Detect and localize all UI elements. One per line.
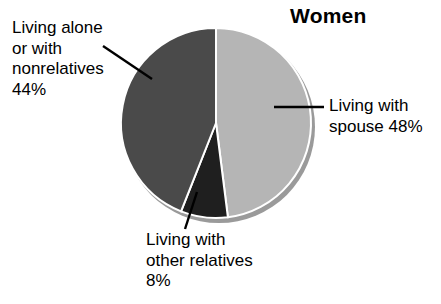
pie-chart-figure: Women Living alone or with nonrelatives …	[0, 0, 441, 304]
annotation-living-with-other-relatives: Living with other relatives 8%	[146, 230, 306, 292]
pie-slices	[121, 28, 311, 218]
annotation-living-alone: Living alone or with nonrelatives 44%	[12, 18, 147, 101]
annotation-living-with-spouse: Living with spouse 48%	[329, 96, 441, 137]
pie-slice-living-with-spouse[interactable]	[216, 28, 311, 217]
chart-title: Women	[290, 4, 435, 27]
